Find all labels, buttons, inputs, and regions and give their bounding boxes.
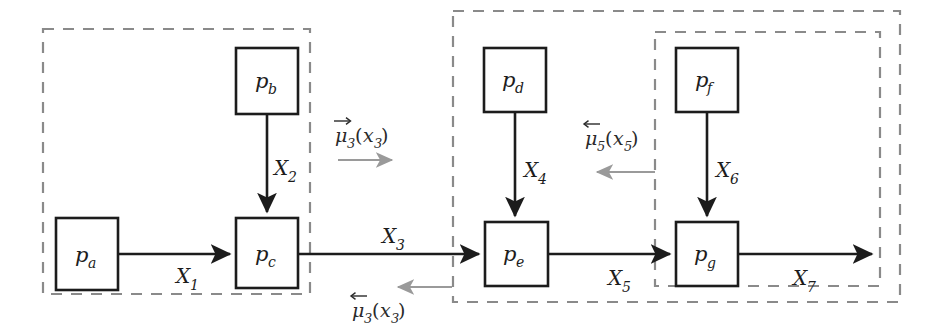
edge-label-x7-base: X <box>791 266 808 290</box>
edge-label-x1-base: X <box>174 264 191 288</box>
message-label-mu3-forward-lparen: ( <box>355 124 362 146</box>
node-label-pb-sub: b <box>268 81 277 97</box>
node-label-pd-sub: d <box>515 80 524 96</box>
edge-label-x1: X 1 <box>174 264 199 293</box>
edge-label-x2: X 2 <box>272 156 297 185</box>
edge-label-x4-sub: 4 <box>537 171 547 187</box>
node-pe[interactable]: p e <box>485 222 548 286</box>
edge-label-x6-sub: 6 <box>730 171 739 187</box>
message-label-mu5-backward-lparen: ( <box>605 127 612 149</box>
message-label-mu3-backward-base: μ <box>352 299 364 321</box>
node-label-pg-base: p <box>694 242 707 266</box>
edge-label-x4: X 4 <box>522 158 547 187</box>
node-pa[interactable]: p a <box>56 218 118 290</box>
node-label-pc-base: p <box>255 242 268 266</box>
edge-label-x6: X 6 <box>714 158 739 187</box>
edge-label-x3-base: X <box>380 224 397 248</box>
edge-label-x7: X 7 <box>791 266 816 295</box>
message-label-mu3-backward-rparen: ) <box>398 299 405 321</box>
node-pg[interactable]: p g <box>676 222 738 286</box>
edge-label-x3: X 3 <box>380 224 405 253</box>
edge-label-x7-sub: 7 <box>807 279 816 295</box>
node-label-pd-base: p <box>502 68 515 92</box>
node-label-pe-sub: e <box>516 254 524 270</box>
message-label-mu3-forward: μ 3 ( x 3 ) <box>334 118 388 151</box>
edge-label-x5-base: X <box>606 266 623 290</box>
edge-label-x1-sub: 1 <box>190 277 199 293</box>
node-label-pa-sub: a <box>88 255 96 271</box>
node-label-pc-sub: c <box>268 254 276 270</box>
edge-label-x5-sub: 5 <box>622 279 631 295</box>
edge-label-x2-base: X <box>272 156 289 180</box>
message-label-mu3-backward: μ 3 ( x 3 ) <box>351 293 405 326</box>
message-label-mu3-forward-rparen: ) <box>381 124 388 146</box>
edge-label-x3-sub: 3 <box>396 237 405 253</box>
edge-label-x4-base: X <box>522 158 539 182</box>
node-pc[interactable]: p c <box>236 218 298 288</box>
node-pf[interactable]: p f <box>676 48 738 112</box>
edge-label-x2-sub: 2 <box>287 169 297 185</box>
node-label-pe-base: p <box>503 242 516 266</box>
node-pd[interactable]: p d <box>484 48 546 112</box>
node-label-pb-base: p <box>255 69 268 93</box>
message-label-mu5-backward: μ 5 ( x 5 ) <box>584 121 638 154</box>
message-label-mu5-backward-base: μ <box>585 127 597 149</box>
message-label-mu3-backward-lparen: ( <box>372 299 379 321</box>
node-label-pg-sub: g <box>707 255 716 271</box>
message-label-mu3-backward-arg: x <box>380 299 391 321</box>
message-label-mu5-backward-arg: x <box>613 127 624 149</box>
group-boundaries <box>43 11 900 302</box>
factor-graph-diagram: p a p b p c p d p e p f <box>0 0 936 334</box>
message-label-mu5-backward-rparen: ) <box>631 127 638 149</box>
diagram-canvas: p a p b p c p d p e p f <box>0 0 936 334</box>
node-pb[interactable]: p b <box>236 48 298 114</box>
node-label-pa-base: p <box>75 243 88 267</box>
message-label-mu3-forward-base: μ <box>335 124 347 146</box>
edge-label-x5: X 5 <box>606 266 631 295</box>
message-label-mu3-forward-arg: x <box>363 124 374 146</box>
edge-label-x6-base: X <box>714 158 731 182</box>
